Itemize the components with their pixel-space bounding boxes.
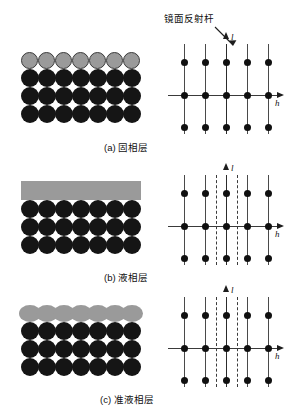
bulk-atom xyxy=(55,105,73,123)
bulk-atom xyxy=(89,218,107,236)
dashed-rod xyxy=(216,297,217,387)
bulk-atom xyxy=(55,236,73,254)
bulk-atom xyxy=(72,105,90,123)
diffraction-rod xyxy=(268,44,269,134)
specular-rod xyxy=(226,175,227,265)
surface-atom xyxy=(55,52,72,69)
bulk-atom xyxy=(21,87,39,105)
bulk-atom xyxy=(106,105,124,123)
reciprocal-node xyxy=(202,345,209,352)
bulk-atom xyxy=(72,358,90,376)
liquid-surface-slab xyxy=(21,181,141,200)
h-axis-arrow-icon xyxy=(277,345,284,351)
h-axis-label: h xyxy=(275,230,280,239)
bulk-atom xyxy=(123,236,141,254)
reciprocal-node xyxy=(202,377,209,384)
reciprocal-node xyxy=(265,223,272,230)
bulk-atom xyxy=(123,340,141,358)
bulk-atom xyxy=(123,69,141,87)
bulk-atom xyxy=(89,358,107,376)
reciprocal-node xyxy=(244,377,251,384)
bulk-atom xyxy=(38,200,56,218)
reciprocal-node xyxy=(244,59,251,66)
diffraction-rod xyxy=(205,175,206,265)
surface-atom xyxy=(72,52,89,69)
diffraction-rod xyxy=(184,297,185,387)
bulk-atom xyxy=(38,340,56,358)
reciprocal-node xyxy=(202,223,209,230)
diffraction-rod xyxy=(205,297,206,387)
reciprocal-node xyxy=(202,190,209,197)
bulk-atom xyxy=(106,87,124,105)
dashed-rod xyxy=(237,175,238,265)
reciprocal-node xyxy=(181,312,188,319)
l-axis-label: l xyxy=(231,286,234,295)
bulk-atom xyxy=(72,236,90,254)
bulk-atom xyxy=(21,358,39,376)
bulk-atom xyxy=(123,105,141,123)
diffraction-rod xyxy=(247,297,248,387)
panel-b-caption: (b) 液相层 xyxy=(104,273,148,283)
reciprocal-node xyxy=(223,59,230,66)
bulk-atom xyxy=(106,358,124,376)
reciprocal-node xyxy=(244,190,251,197)
h-axis-arrow-icon xyxy=(277,92,284,98)
bulk-atom xyxy=(21,340,39,358)
bulk-atom xyxy=(21,105,39,123)
bulk-atom xyxy=(55,340,73,358)
surface-atom xyxy=(123,52,140,69)
reciprocal-node xyxy=(244,255,251,262)
h-axis-arrow-icon xyxy=(277,223,284,229)
reciprocal-node xyxy=(202,124,209,131)
reciprocal-node xyxy=(265,255,272,262)
bulk-atom xyxy=(72,218,90,236)
diffraction-rod xyxy=(184,175,185,265)
reciprocal-node xyxy=(223,92,230,99)
reciprocal-node xyxy=(223,223,230,230)
bulk-atom xyxy=(21,236,39,254)
l-axis-label: l xyxy=(231,164,234,173)
arrow-leader-icon xyxy=(0,0,298,60)
bulk-atom xyxy=(106,340,124,358)
bulk-atom xyxy=(21,218,39,236)
dashed-rod xyxy=(237,297,238,387)
reciprocal-node xyxy=(181,92,188,99)
bulk-atom xyxy=(38,105,56,123)
bulk-atom xyxy=(55,87,73,105)
reciprocal-node xyxy=(181,377,188,384)
bulk-atom xyxy=(55,358,73,376)
reciprocal-node xyxy=(181,345,188,352)
bulk-atom xyxy=(89,340,107,358)
specular-rod xyxy=(226,44,227,134)
l-axis-arrow-icon xyxy=(223,163,229,170)
reciprocal-node xyxy=(223,345,230,352)
h-axis-label: h xyxy=(275,352,280,361)
l-axis-arrow-icon xyxy=(223,32,229,39)
h-axis-label: h xyxy=(275,99,280,108)
bulk-atom xyxy=(123,322,141,340)
surface-atom xyxy=(38,52,55,69)
bulk-atom xyxy=(106,69,124,87)
reciprocal-node xyxy=(265,312,272,319)
reciprocal-node xyxy=(181,124,188,131)
bulk-atom xyxy=(72,322,90,340)
bulk-atom xyxy=(89,87,107,105)
diffraction-rod xyxy=(247,175,248,265)
reciprocal-node xyxy=(265,59,272,66)
l-axis-arrow-icon xyxy=(223,285,229,292)
bulk-atom xyxy=(21,200,39,218)
phase-layer-diffraction-figure: 镜面反射杆 xyxy=(0,0,298,420)
reciprocal-node xyxy=(223,124,230,131)
reciprocal-node xyxy=(181,223,188,230)
bulk-atom xyxy=(38,218,56,236)
reciprocal-node xyxy=(223,190,230,197)
reciprocal-node xyxy=(202,255,209,262)
reciprocal-node xyxy=(181,59,188,66)
bulk-atom xyxy=(72,87,90,105)
bulk-atom xyxy=(123,87,141,105)
reciprocal-node xyxy=(265,92,272,99)
bulk-atom xyxy=(38,236,56,254)
bulk-atom xyxy=(38,358,56,376)
bulk-atom xyxy=(38,87,56,105)
bulk-atom xyxy=(21,69,39,87)
